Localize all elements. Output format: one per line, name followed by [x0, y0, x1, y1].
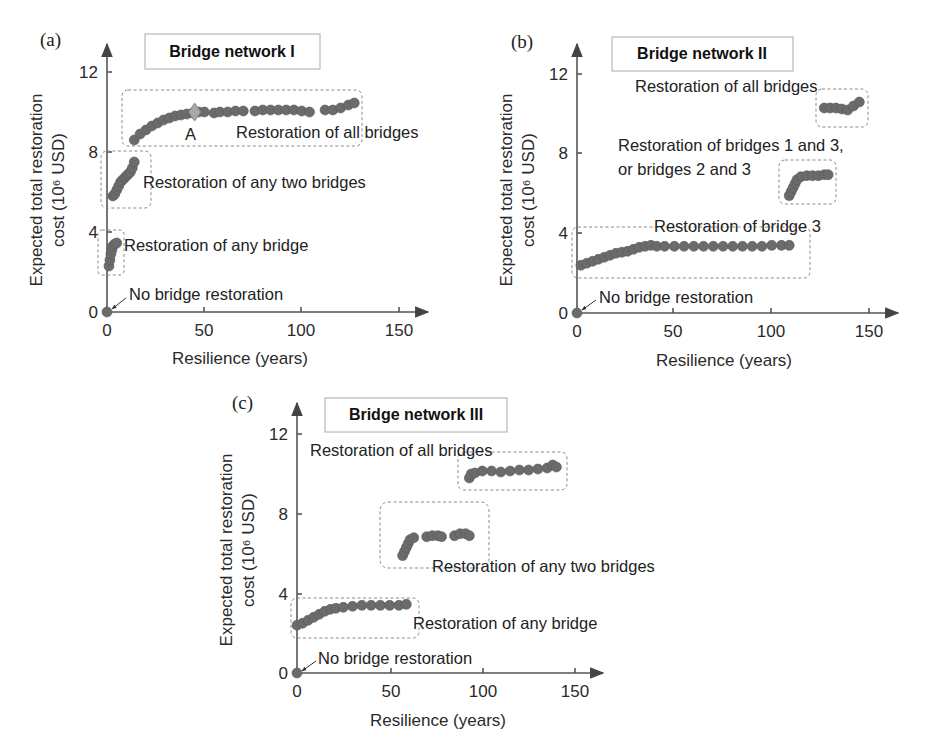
- panel-a-annot-none: No bridge restoration: [129, 285, 283, 303]
- data-point: [477, 466, 487, 476]
- panel-c-x-label: Resilience (years): [370, 711, 506, 730]
- data-point: [660, 241, 670, 251]
- data-point: [366, 600, 376, 610]
- data-point: [357, 600, 367, 610]
- data-point: [464, 531, 474, 541]
- panel-b-xtick-50: 50: [664, 322, 683, 341]
- data-point: [505, 466, 515, 476]
- panel-a-ytick-12: 12: [79, 63, 98, 82]
- data-point: [854, 97, 864, 107]
- data-point: [304, 107, 314, 117]
- panel-c-ytick-12: 12: [269, 425, 288, 444]
- data-point: [551, 462, 561, 472]
- panel-c-annot-one: Restoration of any bridge: [413, 614, 597, 632]
- panel-c-y-label-line1: Expected total restoration: [217, 454, 236, 647]
- panel-c-xtick-100: 100: [469, 682, 497, 701]
- data-point: [784, 240, 794, 250]
- panel-b-xtick-0: 0: [572, 322, 581, 341]
- data-point: [699, 241, 709, 251]
- data-point: [728, 241, 738, 251]
- panel-b-pointer-arrow: [582, 300, 596, 310]
- data-point: [437, 532, 447, 542]
- panel-b-annot-all: Restoration of all bridges: [635, 77, 818, 95]
- panel-a-annot-one: Restoration of any bridge: [124, 236, 308, 254]
- panel-c-title: Bridge network III: [349, 406, 483, 423]
- data-point: [112, 238, 122, 248]
- panel-a-ytick-4: 4: [89, 223, 98, 242]
- panel-a-xtick-150: 150: [385, 321, 413, 340]
- panel-b-label: (b): [511, 31, 533, 53]
- panel-a-annot-all: Restoration of all bridges: [236, 123, 419, 141]
- data-point: [747, 241, 757, 251]
- panel-a-y-label-line2: cost (10⁶ USD): [49, 133, 68, 247]
- panel-a-xtick-50: 50: [195, 321, 214, 340]
- data-point: [767, 240, 777, 250]
- panel-b-xtick-150: 150: [855, 322, 883, 341]
- panel-b-xtick-100: 100: [757, 322, 785, 341]
- panel-b-x-label: Resilience (years): [656, 351, 792, 370]
- data-point: [385, 600, 395, 610]
- data-point: [338, 602, 348, 612]
- panel-a-x-label: Resilience (years): [172, 349, 308, 368]
- panel-c-ytick-8: 8: [279, 505, 288, 524]
- panel-c: (c) Bridge network III 0 50 100 150 0 4 …: [217, 392, 655, 730]
- figure-canvas: (a) Bridge network I 0 50 100 150 0 4 8 …: [0, 0, 943, 747]
- panel-b-ytick-12: 12: [549, 65, 568, 84]
- data-point: [572, 308, 582, 318]
- data-point: [375, 600, 385, 610]
- panel-b-annot-two-line1: Restoration of bridges 1 and 3,: [618, 136, 844, 154]
- panel-c-xtick-0: 0: [292, 682, 301, 701]
- data-point: [757, 241, 767, 251]
- panel-b: (b) Bridge network II 0 50 100 150 0 4 8…: [497, 31, 898, 370]
- panel-a-ytick-8: 8: [89, 143, 98, 162]
- panel-c-xtick-50: 50: [382, 682, 401, 701]
- panel-b-annot-one: Restoration of bridge 3: [654, 217, 821, 235]
- data-point: [669, 241, 679, 251]
- data-point: [524, 465, 534, 475]
- data-point: [292, 668, 302, 678]
- data-point: [401, 599, 411, 609]
- data-point: [238, 106, 248, 116]
- data-point: [102, 307, 112, 317]
- panel-c-annot-all: Restoration of all bridges: [310, 441, 493, 459]
- panel-a-y-label-line1: Expected total restoration: [27, 94, 46, 287]
- data-point: [348, 601, 358, 611]
- panel-c-ytick-4: 4: [279, 585, 288, 604]
- panel-c-y-label-line2: cost (10⁶ USD): [239, 493, 258, 607]
- panel-b-ytick-0: 0: [559, 304, 568, 323]
- point-a-marker: [189, 103, 201, 121]
- panel-a-annot-two: Restoration of any two bridges: [143, 173, 366, 191]
- panel-a: (a) Bridge network I 0 50 100 150 0 4 8 …: [27, 29, 428, 368]
- panel-b-y-label-line1: Expected total restoration: [497, 94, 516, 287]
- panel-b-title: Bridge network II: [637, 45, 767, 62]
- panel-a-pointer-arrow: [112, 298, 126, 309]
- panel-c-label: (c): [232, 392, 253, 414]
- panel-c-xtick-150: 150: [561, 682, 589, 701]
- panel-a-ytick-0: 0: [89, 303, 98, 322]
- panel-c-ytick-0: 0: [279, 664, 288, 683]
- data-point: [708, 241, 718, 251]
- data-point: [718, 241, 728, 251]
- data-point: [823, 170, 833, 180]
- panel-a-xtick-0: 0: [102, 321, 111, 340]
- panel-a-title: Bridge network I: [169, 43, 294, 60]
- panel-b-annot-two-line2: or bridges 2 and 3: [618, 160, 751, 178]
- data-point: [679, 241, 689, 251]
- data-point: [737, 241, 747, 251]
- panel-b-ytick-8: 8: [559, 144, 568, 163]
- panel-a-label: (a): [40, 29, 61, 51]
- data-point: [487, 466, 497, 476]
- panel-b-ytick-4: 4: [559, 224, 568, 243]
- panel-c-pointer-arrow: [302, 661, 316, 671]
- panel-a-xtick-100: 100: [287, 321, 315, 340]
- data-point: [409, 533, 419, 543]
- panel-a-annot-point-a: A: [185, 125, 196, 143]
- data-point: [129, 157, 139, 167]
- panel-c-annot-two: Restoration of any two bridges: [432, 557, 655, 575]
- panel-b-annot-none: No bridge restoration: [599, 288, 753, 306]
- data-point: [514, 465, 524, 475]
- data-point: [496, 467, 506, 477]
- data-point: [349, 98, 359, 108]
- panel-c-annot-none: No bridge restoration: [318, 649, 472, 667]
- data-point: [689, 241, 699, 251]
